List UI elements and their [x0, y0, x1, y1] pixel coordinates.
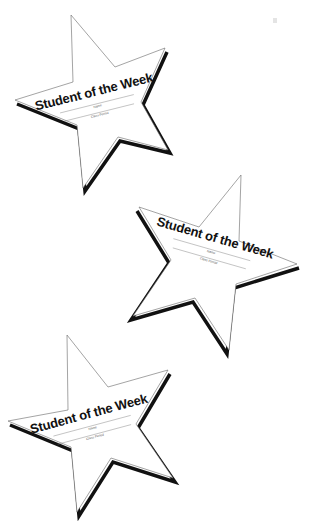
star-3: Student of the Week Name Class Period	[8, 335, 175, 516]
star-2: Student of the Week Name Class Period	[131, 175, 299, 354]
star-sheet: Student of the Week Name Class Period St…	[0, 0, 311, 521]
star-1: Student of the Week Name Class Period	[15, 15, 170, 191]
